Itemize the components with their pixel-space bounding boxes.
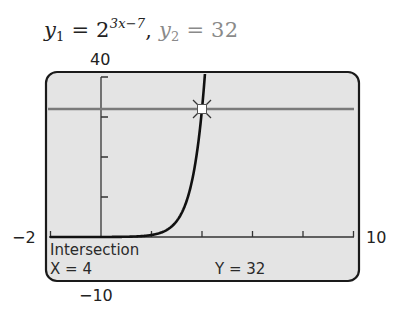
intersection-y: Y = 32	[215, 260, 265, 278]
intersection-title: Intersection	[50, 241, 139, 259]
intersection-x: X = 4	[50, 260, 92, 278]
